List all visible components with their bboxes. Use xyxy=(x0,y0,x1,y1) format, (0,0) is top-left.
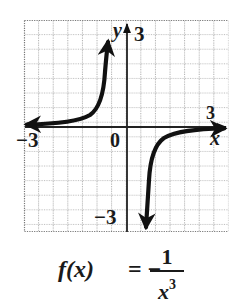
y-tick-top-label: 3 xyxy=(134,24,145,45)
equation-numerator: 1 xyxy=(150,246,184,268)
equation-fraction: 1 x3 xyxy=(150,246,184,303)
y-axis-label: y xyxy=(113,20,122,40)
x-tick-left-label: −3 xyxy=(16,130,38,151)
origin-label: 0 xyxy=(110,130,120,150)
function-equation: f(x) = − 1 x3 xyxy=(0,246,234,298)
x-tick-right-label: 3 xyxy=(206,104,215,122)
x-axis-label: x xyxy=(210,128,220,148)
fraction-bar xyxy=(150,270,184,272)
equation-denominator: x3 xyxy=(150,274,184,303)
y-tick-bottom-label: −3 xyxy=(94,207,116,228)
denominator-base: x xyxy=(158,279,169,303)
denominator-exponent: 3 xyxy=(169,277,176,292)
equation-lhs: f(x) xyxy=(58,256,94,283)
